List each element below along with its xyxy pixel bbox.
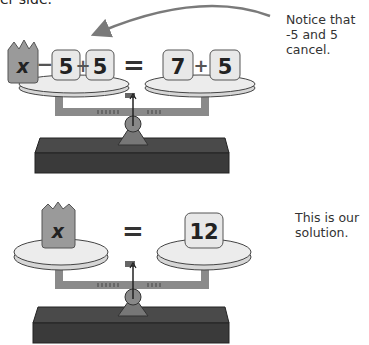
annotation-solution-note: This is our solution.	[295, 210, 359, 240]
equals-sign: =	[122, 216, 144, 246]
term-tile: 5	[93, 55, 108, 79]
curved-arrow-icon	[100, 6, 270, 32]
plus-sign: +	[193, 55, 208, 76]
variable-x: x	[16, 55, 30, 77]
minus-sign: −	[37, 52, 54, 76]
variable-x: x	[51, 220, 65, 242]
annotation-cancel-note: Notice that -5 and 5 cancel.	[286, 12, 355, 57]
term-tile: 5	[59, 55, 74, 79]
term-tile: 5	[218, 55, 233, 79]
equals-sign: =	[123, 50, 145, 80]
plus-sign: +	[75, 55, 90, 76]
term-tile: 12	[189, 220, 218, 244]
scale-beam	[55, 108, 209, 116]
term-tile: 7	[171, 55, 186, 79]
scale-beam	[55, 281, 209, 289]
